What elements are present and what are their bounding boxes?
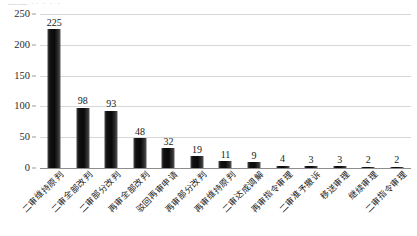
bar-value-label: 11 [221,150,231,160]
bar-value-label: 48 [135,127,145,137]
y-axis-tick-label: 100 [14,101,30,112]
y-axis-tick-label: 200 [14,40,30,51]
bar-slot: 3 [297,14,326,168]
y-axis-tick-mark [32,14,36,15]
y-axis-tick-label: 50 [20,132,31,143]
y-axis-tick-label: 150 [14,70,30,81]
bar-slot: 32 [154,14,183,168]
y-axis: 050100150200250 [0,14,36,168]
scan-artifact-text: —— ·· · · · [8,0,128,7]
bar-slot: 2 [382,14,411,168]
bar [162,148,175,168]
bar-value-label: 4 [280,154,285,164]
bar [219,161,232,168]
y-axis-tick-mark [32,137,36,138]
bar-slot: 9 [240,14,269,168]
bar-slot: 48 [126,14,155,168]
bar-slot: 19 [183,14,212,168]
bar [48,29,61,168]
y-axis-tick-label: 250 [14,9,30,20]
y-axis-tick-mark [32,44,36,45]
bar [105,111,118,168]
bar-value-label: 3 [309,155,314,165]
bar [190,156,203,168]
bar-slot: 3 [325,14,354,168]
bar-slot: 4 [268,14,297,168]
bars-layer: 225989348321911943322 [40,14,411,168]
bar-slot: 225 [40,14,69,168]
bar-value-label: 225 [47,18,62,28]
bar-value-label: 93 [106,99,116,109]
bar-slot: 93 [97,14,126,168]
bar-value-label: 2 [394,155,399,165]
bar-value-label: 19 [192,145,202,155]
bar-slot: 11 [211,14,240,168]
x-axis-category-labels: 二审维持原判二审全部改判二审部分改判再审全部改判驳回再审申请再审部分改判再审维持… [40,168,411,236]
y-axis-tick-mark [32,168,36,169]
x-axis-category-label: 移送审理 [319,170,351,202]
plot-area: 225989348321911943322 [40,14,411,168]
bar-value-label: 98 [78,96,88,106]
bar-slot: 2 [354,14,383,168]
bar-chart-figure: —— ·· · · · 050100150200250 225989348321… [0,0,417,236]
bar [133,138,146,168]
bar-value-label: 3 [337,155,342,165]
bar-slot: 98 [69,14,98,168]
bar-value-label: 32 [163,137,173,147]
bar-value-label: 2 [366,155,371,165]
y-axis-tick-mark [32,75,36,76]
y-axis-tick-mark [32,106,36,107]
y-axis-tick-label: 0 [25,163,30,174]
bar [76,108,89,168]
bar-value-label: 9 [252,151,257,161]
